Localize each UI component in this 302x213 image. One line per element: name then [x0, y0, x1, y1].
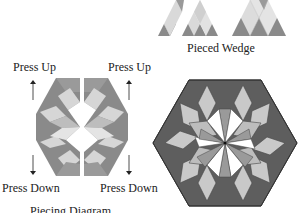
press-down-label-right: Press Down — [100, 181, 158, 196]
press-up-label-left: Press Up — [13, 60, 56, 75]
half-hexagon-right — [84, 78, 128, 176]
press-down-label-left: Press Down — [2, 181, 60, 196]
press-up-label-right: Press Up — [108, 60, 151, 75]
pieced-wedge-assembled — [232, 0, 292, 38]
half-hexagon-left — [36, 78, 80, 176]
completed-hexagon-block — [152, 79, 298, 207]
pieced-wedge-label: Pieced Wedge — [187, 41, 255, 56]
piecing-diagram-label: Piecing Diagram — [30, 204, 111, 213]
